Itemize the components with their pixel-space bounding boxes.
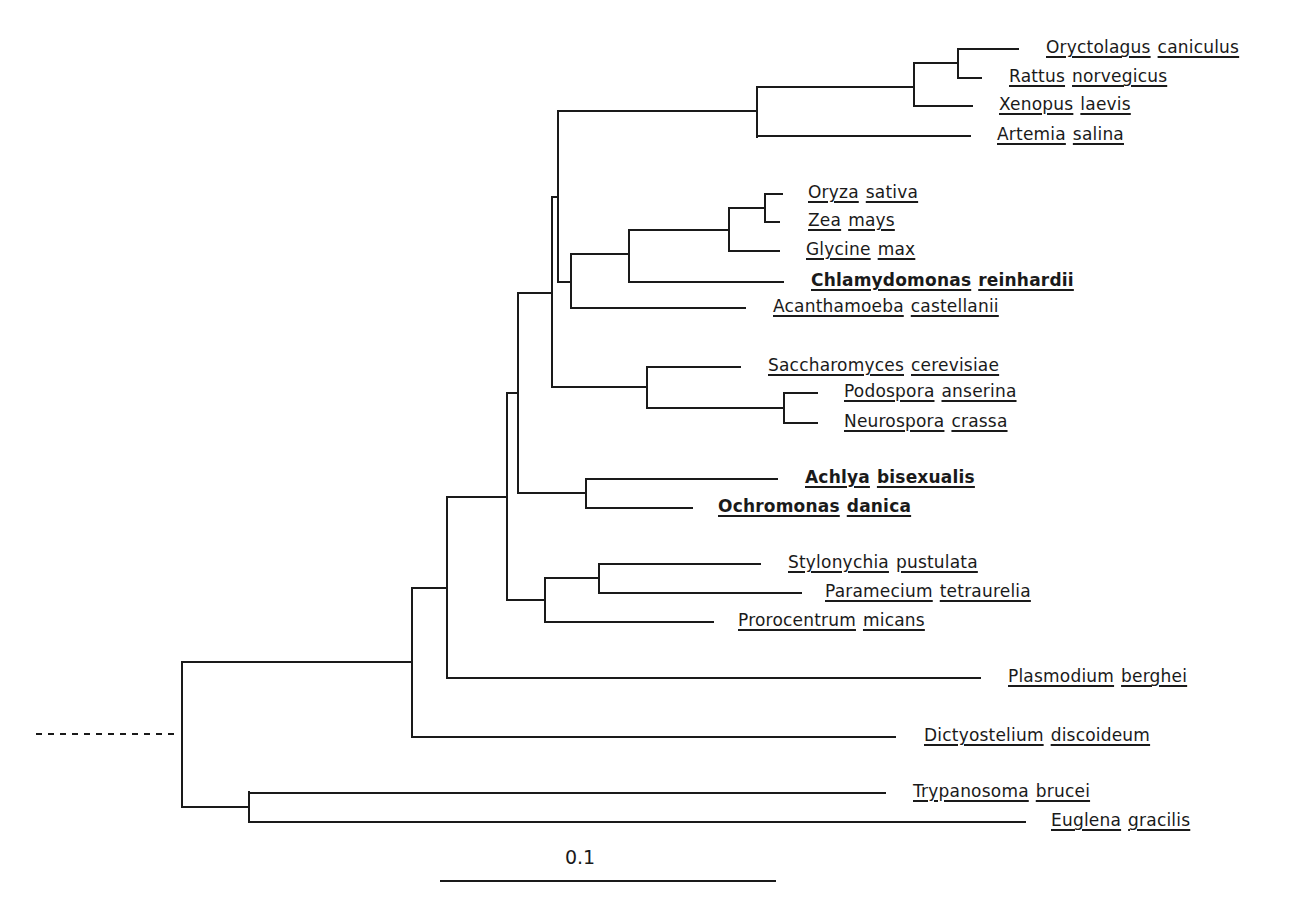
taxon-label-neurospora: Neurosporacrassa (844, 411, 1008, 431)
taxon-species: mays (848, 210, 895, 230)
taxon-genus: Saccharomyces (768, 355, 904, 375)
taxon-species: norvegicus (1072, 66, 1167, 86)
taxon-genus: Chlamydomonas (811, 270, 971, 290)
taxon-label-plasmodium: Plasmodiumberghei (1008, 666, 1187, 686)
taxon-genus: Acanthamoeba (773, 296, 904, 316)
taxon-species: castellanii (911, 296, 999, 316)
taxon-genus: Euglena (1051, 810, 1121, 830)
taxon-label-paramecium: Parameciumtetraurelia (825, 581, 1031, 601)
taxon-species: gracilis (1128, 810, 1190, 830)
taxon-species: micans (863, 610, 925, 630)
taxon-label-zea: Zeamays (808, 210, 895, 230)
taxon-genus: Trypanosoma (913, 781, 1029, 801)
taxon-species: discoideum (1051, 725, 1150, 745)
taxon-species: tetraurelia (940, 581, 1031, 601)
phylogenetic-tree: Oryctolaguscaniculus Rattusnorvegicus Xe… (0, 0, 1305, 920)
taxon-genus: Oryza (808, 182, 859, 202)
taxon-label-chlamydomonas: Chlamydomonasreinhardii (811, 270, 1074, 290)
taxon-species: cerevisiae (911, 355, 999, 375)
taxon-genus: Zea (808, 210, 841, 230)
taxon-species: max (878, 239, 916, 259)
taxon-species: reinhardii (978, 270, 1074, 290)
taxon-genus: Achlya (805, 467, 870, 487)
taxon-label-acanthamoeba: Acanthamoebacastellanii (773, 296, 999, 316)
taxon-label-artemia: Artemiasalina (997, 124, 1124, 144)
taxon-label-oryctolagus: Oryctolaguscaniculus (1046, 37, 1239, 57)
taxon-genus: Prorocentrum (738, 610, 856, 630)
taxon-species: laevis (1080, 94, 1130, 114)
taxon-species: brucei (1036, 781, 1090, 801)
taxon-species: danica (847, 496, 911, 516)
taxon-species: crassa (951, 411, 1007, 431)
taxon-label-prorocentrum: Prorocentrummicans (738, 610, 925, 630)
taxon-genus: Oryctolagus (1046, 37, 1151, 57)
taxon-label-glycine: Glycinemax (806, 239, 915, 259)
taxon-genus: Stylonychia (788, 552, 889, 572)
taxon-genus: Rattus (1009, 66, 1065, 86)
taxon-label-ochromonas: Ochromonasdanica (718, 496, 911, 516)
taxon-species: berghei (1121, 666, 1187, 686)
scale-bar-label: 0.1 (565, 846, 595, 868)
taxon-genus: Xenopus (999, 94, 1073, 114)
branch-layer (182, 49, 1025, 822)
taxon-label-oryza: Oryzasativa (808, 182, 918, 202)
taxon-genus: Podospora (844, 381, 935, 401)
taxon-species: sativa (866, 182, 918, 202)
taxon-species: bisexualis (877, 467, 975, 487)
taxon-genus: Artemia (997, 124, 1066, 144)
taxon-label-stylonychia: Stylonychiapustulata (788, 552, 978, 572)
taxon-label-dictyostelium: Dictyosteliumdiscoideum (924, 725, 1150, 745)
taxon-genus: Ochromonas (718, 496, 840, 516)
taxon-label-podospora: Podosporaanserina (844, 381, 1017, 401)
taxon-genus: Neurospora (844, 411, 944, 431)
taxon-species: salina (1073, 124, 1124, 144)
taxon-label-trypanosoma: Trypanosomabrucei (913, 781, 1090, 801)
taxon-species: caniculus (1158, 37, 1240, 57)
taxon-label-euglena: Euglenagracilis (1051, 810, 1190, 830)
taxon-genus: Dictyostelium (924, 725, 1044, 745)
taxon-species: anserina (942, 381, 1017, 401)
taxon-label-rattus: Rattusnorvegicus (1009, 66, 1167, 86)
taxon-label-xenopus: Xenopuslaevis (999, 94, 1131, 114)
taxon-genus: Paramecium (825, 581, 933, 601)
taxon-genus: Plasmodium (1008, 666, 1114, 686)
taxon-label-achlya: Achlyabisexualis (805, 467, 975, 487)
taxon-species: pustulata (896, 552, 978, 572)
taxon-label-saccharomyces: Saccharomycescerevisiae (768, 355, 999, 375)
taxon-genus: Glycine (806, 239, 871, 259)
